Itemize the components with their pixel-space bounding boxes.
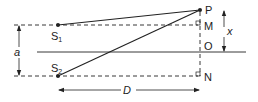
dimension-a-label: a — [14, 46, 20, 58]
label-m: M — [204, 20, 213, 32]
label-n: N — [204, 71, 212, 83]
ray-s2-p — [58, 10, 200, 76]
label-s1: S1 — [51, 30, 62, 43]
dimension-x-label: x — [226, 25, 233, 37]
source-s1-dot — [56, 23, 60, 27]
right-angle-marker-m — [196, 21, 200, 25]
interference-diagram: a x D S1 S2 P M O N — [0, 0, 258, 102]
dimension-d-label: D — [123, 84, 131, 96]
label-s2: S2 — [51, 62, 62, 75]
label-p: P — [205, 4, 212, 16]
right-angle-marker-n — [196, 72, 200, 76]
label-o: O — [204, 40, 213, 52]
point-p-dot — [198, 8, 202, 12]
ray-s1-p — [58, 10, 200, 25]
